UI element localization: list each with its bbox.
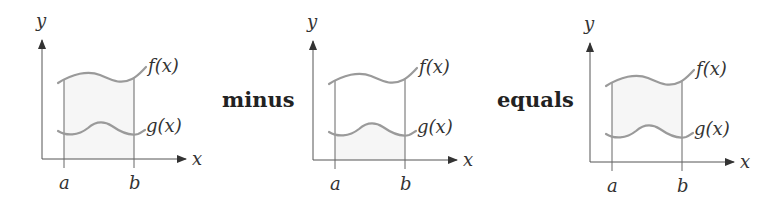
area-between-curves-diagram: y x a b f(x) g(x) minus y x a b f(x) g(x…	[0, 0, 781, 205]
x-axis-label: x	[740, 151, 750, 172]
f-curve	[329, 68, 417, 84]
y-axis-label: y	[306, 11, 318, 32]
f-label: f(x)	[417, 56, 450, 77]
f-label: f(x)	[694, 58, 727, 79]
panel-3: y x a b f(x) g(x)	[583, 13, 750, 196]
y-axis-label: y	[583, 13, 595, 34]
b-label: b	[400, 173, 412, 194]
x-axis-label: x	[463, 149, 473, 170]
g-label: g(x)	[694, 118, 730, 139]
g-label: g(x)	[146, 115, 182, 136]
minus-operator: minus	[222, 87, 295, 112]
a-label: a	[59, 172, 70, 193]
panel-1: y x a b f(x) g(x)	[35, 10, 202, 193]
shaded-region	[335, 123, 405, 160]
y-axis-label: y	[35, 10, 47, 31]
g-label: g(x)	[417, 116, 453, 137]
f-label: f(x)	[146, 55, 179, 76]
b-label: b	[677, 175, 689, 196]
a-label: a	[330, 173, 341, 194]
a-label: a	[607, 175, 618, 196]
equals-operator: equals	[497, 87, 574, 112]
shaded-region	[612, 77, 682, 138]
shaded-region	[64, 74, 134, 159]
b-label: b	[129, 172, 141, 193]
panel-2: y x a b f(x) g(x)	[306, 11, 473, 194]
x-axis-label: x	[192, 148, 202, 169]
